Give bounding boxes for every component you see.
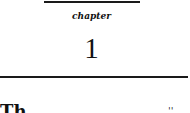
top-rule-divider [44,1,140,3]
chapter-label: chapter [0,11,183,21]
chapter-number: 1 [0,33,183,63]
section-rule-divider [0,76,188,78]
body-text-fragment: Th [0,103,26,113]
body-text-fragment-right: '' [168,106,174,113]
